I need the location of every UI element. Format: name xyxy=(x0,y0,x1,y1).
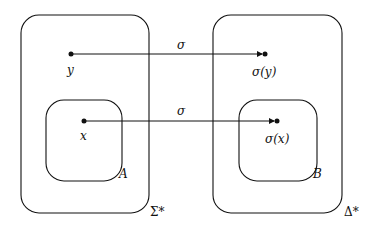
label-sigma-star: Σ* xyxy=(150,205,164,219)
arrowhead-icon xyxy=(257,51,263,57)
label-subset-b: B xyxy=(312,167,322,181)
label-arrow-sigma-top: σ xyxy=(177,38,186,52)
label-arrow-sigma-bottom: σ xyxy=(177,104,186,118)
delta-star-set xyxy=(213,15,342,213)
point-x xyxy=(82,119,87,124)
label-sigma-y: σ(y) xyxy=(252,65,277,79)
label-x: x xyxy=(80,129,87,143)
arrowhead-icon xyxy=(269,118,275,124)
label-sigma-x: σ(x) xyxy=(265,132,290,146)
label-subset-a: A xyxy=(118,167,128,181)
sigma-star-set xyxy=(21,15,149,213)
point-sigma-y xyxy=(263,52,268,57)
set-mapping-diagram: y x A Σ* σ(y) σ(x) B Δ* σ σ xyxy=(0,0,374,227)
point-sigma-x xyxy=(275,119,280,124)
label-delta-star: Δ* xyxy=(344,205,359,219)
label-y: y xyxy=(66,63,74,77)
point-y xyxy=(69,52,74,57)
